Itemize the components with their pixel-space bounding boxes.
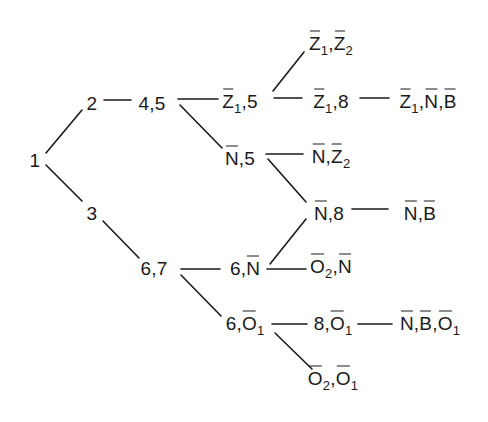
tree-node-n6O1: 6,O1 (226, 314, 265, 337)
subscript: 1 (351, 378, 358, 393)
overlined-symbol: O (308, 369, 323, 388)
overlined-symbol: Z (334, 34, 346, 53)
tree-node-nZ15: Z1,5 (222, 92, 258, 115)
node-text: 6, (226, 314, 242, 333)
subscript: 2 (325, 266, 332, 281)
tree-node-nNZ2: N,Z2 (312, 147, 351, 170)
subscript: 2 (323, 378, 330, 393)
tree-node-n67: 6,7 (140, 259, 167, 278)
tree-node-n45: 4,5 (138, 94, 165, 113)
overlined-symbol: O (438, 314, 453, 333)
tree-node-n2: 2 (87, 94, 98, 113)
subscript: 1 (411, 101, 418, 116)
node-text: 1 (30, 151, 41, 170)
edge-n45-nN5 (180, 105, 222, 148)
overlined-symbol: N (338, 257, 352, 276)
node-text: 6,7 (140, 259, 167, 278)
tree-node-n3: 3 (87, 204, 98, 223)
overlined-symbol: N (225, 149, 239, 168)
tree-node-nN5: N,5 (225, 149, 255, 168)
tree-node-n1: 1 (30, 151, 41, 170)
overlined-symbol: B (419, 314, 432, 333)
tree-node-nZ1NB: Z1,N,B (399, 92, 456, 115)
subscript: 1 (257, 323, 264, 338)
tree-node-nN8: N,8 (314, 204, 344, 223)
overlined-symbol: N (312, 147, 326, 166)
overlined-symbol: O (330, 314, 345, 333)
node-text: 6, (230, 259, 246, 278)
edge-n6O1-nO2O1 (275, 333, 312, 369)
subscript: 1 (234, 101, 241, 116)
node-text: ,8 (333, 92, 349, 111)
overlined-symbol: Z (313, 92, 325, 111)
overlined-symbol: O (336, 369, 351, 388)
overlined-symbol: Z (222, 92, 234, 111)
edge-n1-n2 (46, 110, 82, 153)
tree-node-nNBO1: N,B,O1 (400, 314, 460, 337)
node-text: ,5 (242, 92, 258, 111)
tree-diagram: 1234,56,7Z1,5N,5Z1,Z2Z1,8Z1,N,BN,Z2N,8N,… (0, 0, 488, 422)
tree-node-nO2N: O2,N (310, 257, 352, 280)
subscript: 1 (325, 101, 332, 116)
overlined-symbol: O (310, 257, 325, 276)
edge-nN5-nN8 (268, 159, 306, 202)
node-text: 4,5 (138, 94, 165, 113)
edge-nZ15-nZ1Z2 (273, 52, 304, 91)
overlined-symbol: N (404, 204, 418, 223)
edge-n67-n6O1 (181, 275, 221, 316)
tree-node-nZ18: Z1,8 (313, 92, 349, 115)
overlined-symbol: B (423, 204, 436, 223)
overlined-symbol: O (242, 314, 257, 333)
subscript: 2 (346, 43, 353, 58)
node-text: ,8 (328, 204, 344, 223)
overlined-symbol: Z (399, 92, 411, 111)
node-text: 2 (87, 94, 98, 113)
overlined-symbol: N (314, 204, 328, 223)
edge-n3-n67 (103, 221, 139, 258)
subscript: 1 (345, 323, 352, 338)
edge-n1-n3 (46, 165, 82, 201)
subscript: 2 (343, 156, 350, 171)
tree-node-nO2O1: O2,O1 (308, 369, 358, 392)
subscript: 1 (453, 323, 460, 338)
node-text: ,5 (239, 149, 255, 168)
overlined-symbol: N (246, 259, 260, 278)
overlined-symbol: Z (331, 147, 343, 166)
tree-node-nNB: N,B (404, 204, 436, 223)
node-text: 8, (314, 314, 330, 333)
tree-node-n6N: 6,N (230, 259, 260, 278)
overlined-symbol: Z (309, 34, 321, 53)
overlined-symbol: B (444, 92, 457, 111)
subscript: 1 (321, 43, 328, 58)
overlined-symbol: N (424, 92, 438, 111)
tree-node-nZ1Z2: Z1,Z2 (309, 34, 353, 57)
node-text: 3 (87, 204, 98, 223)
tree-node-n8O1: 8,O1 (314, 314, 353, 337)
overlined-symbol: N (400, 314, 414, 333)
edge-n6N-nN8 (270, 219, 306, 264)
